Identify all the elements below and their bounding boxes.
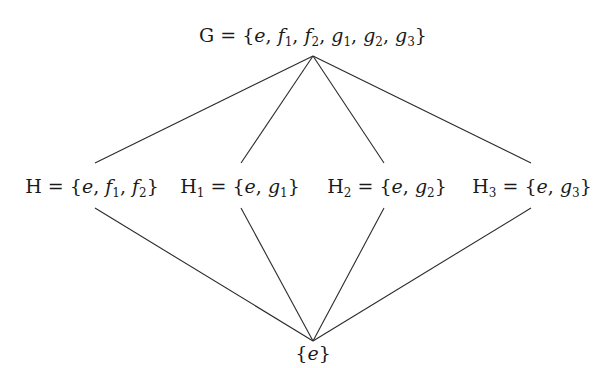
edge-H3-E — [313, 208, 531, 341]
edge-H2-E — [313, 208, 384, 341]
edge-H-E — [95, 208, 313, 341]
edge-G-H2 — [313, 56, 384, 163]
node-H3: H3 = {e, g3} — [472, 175, 592, 197]
edge-G-H3 — [313, 56, 531, 163]
node-H2-sub: 2 — [344, 186, 352, 200]
node-H3-sub: 3 — [489, 186, 497, 200]
node-G-name: G — [199, 24, 214, 46]
node-G: G = {e, f1, f2, g1, g2, g3} — [199, 24, 427, 46]
edge-G-H — [95, 56, 313, 163]
node-H1: H1 = {e, g1} — [180, 175, 300, 197]
edge-H1-E — [241, 208, 313, 341]
edge-G-H1 — [241, 56, 313, 163]
node-H3-name: H — [472, 175, 489, 197]
node-H1-name: H — [180, 175, 197, 197]
node-H2: H2 = {e, g2} — [327, 175, 447, 197]
node-H: H = {e, f1, f2} — [25, 175, 159, 197]
node-identity-element: e — [307, 342, 318, 364]
node-H2-name: H — [327, 175, 344, 197]
node-H-name: H — [25, 175, 42, 197]
node-H1-sub: 1 — [197, 186, 205, 200]
node-identity: {e} — [295, 342, 330, 364]
